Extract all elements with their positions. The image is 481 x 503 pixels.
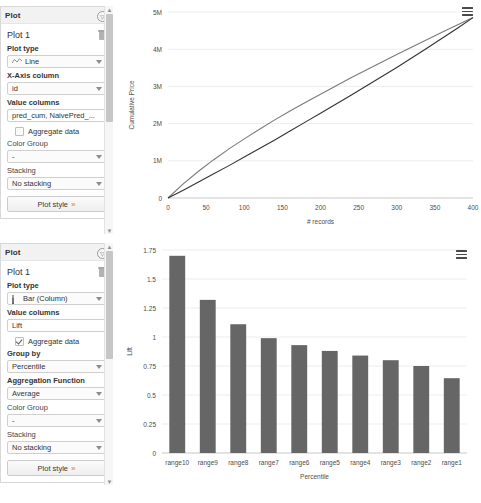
value-columns-field[interactable]: Lift <box>7 319 106 332</box>
aggregation-function-select[interactable]: Average <box>7 387 106 400</box>
plot-type-label: Plot type <box>7 44 106 53</box>
double-chevron-icon: » <box>71 200 75 209</box>
aggregate-data-label: Aggregate data <box>28 127 79 136</box>
svg-text:100: 100 <box>239 204 250 211</box>
panel-title: Plot <box>5 11 21 20</box>
svg-text:0.25: 0.25 <box>143 421 156 428</box>
group-by-value: Percentile <box>12 362 45 371</box>
x-axis-label: X-Axis column <box>7 71 106 80</box>
scroll-down-arrow-icon[interactable]: ▼ <box>106 478 113 485</box>
svg-text:400: 400 <box>468 204 479 211</box>
svg-text:4M: 4M <box>153 46 162 53</box>
aggregate-data-checkbox[interactable] <box>15 127 24 136</box>
svg-text:range10: range10 <box>165 459 189 467</box>
value-columns-label: Value columns <box>7 308 106 317</box>
svg-text:1.5: 1.5 <box>147 276 156 283</box>
plot-style-button[interactable]: Plot style » <box>7 460 106 476</box>
bar-chart-icon <box>12 295 20 303</box>
chevron-down-icon <box>96 419 102 423</box>
plot-panel-top: Plot ▽ Plot 1 Plot type Line X-Axis colu… <box>0 6 113 219</box>
svg-text:0: 0 <box>152 450 156 457</box>
svg-text:3M: 3M <box>153 83 162 90</box>
color-group-value: - <box>12 152 15 161</box>
hamburger-menu-icon[interactable] <box>462 7 473 16</box>
panel-body-top: Plot 1 Plot type Line X-Axis column id V… <box>0 23 113 219</box>
plot-style-button[interactable]: Plot style » <box>7 196 106 212</box>
svg-text:range1: range1 <box>442 459 463 467</box>
chevron-down-icon <box>96 365 102 369</box>
plot-type-label: Plot type <box>7 281 106 290</box>
color-group-label: Color Group <box>7 403 106 412</box>
chevron-down-icon <box>96 446 102 450</box>
color-group-select[interactable]: - <box>7 414 106 427</box>
color-group-label: Color Group <box>7 139 106 148</box>
stacking-value: No stacking <box>12 179 51 188</box>
panel-scrollbar-top[interactable]: ▲ ▼ <box>104 6 113 234</box>
plot-type-select[interactable]: Bar (Column) <box>7 292 106 305</box>
plot-style-label: Plot style <box>38 200 68 209</box>
panel-header-bottom[interactable]: Plot ▽ <box>0 243 113 260</box>
stacking-value: No stacking <box>12 443 51 452</box>
svg-text:range2: range2 <box>411 459 432 467</box>
panel-header-top[interactable]: Plot ▽ <box>0 6 113 23</box>
bar-chart-canvas: 00.250.50.7511.251.51.75range10range9ran… <box>120 240 481 495</box>
plot-type-value: Bar (Column) <box>23 294 68 303</box>
svg-text:0: 0 <box>158 195 162 202</box>
svg-text:range6: range6 <box>289 459 310 467</box>
chevron-down-icon <box>96 182 102 186</box>
stacking-select[interactable]: No stacking <box>7 177 106 190</box>
svg-text:300: 300 <box>391 204 402 211</box>
svg-text:1M: 1M <box>153 157 162 164</box>
plot-panel-bottom: Plot ▽ Plot 1 Plot type Bar (Column) Val… <box>0 243 113 483</box>
line-chart-canvas: 01M2M3M4M5M050100150200250300350400# rec… <box>120 0 481 238</box>
aggregate-data-row[interactable]: Aggregate data <box>15 127 106 136</box>
panel-body-bottom: Plot 1 Plot type Bar (Column) Value colu… <box>0 260 113 483</box>
aggregate-data-checkbox[interactable] <box>15 337 24 346</box>
svg-text:range4: range4 <box>350 459 371 467</box>
svg-text:range7: range7 <box>259 459 280 467</box>
aggregation-function-label: Aggregation Function <box>7 376 106 385</box>
svg-text:range9: range9 <box>198 459 219 467</box>
hamburger-menu-icon[interactable] <box>456 250 467 259</box>
value-columns-field[interactable]: pred_cum, NaivePred_... <box>7 109 106 122</box>
aggregate-data-label: Aggregate data <box>28 337 79 346</box>
scroll-up-arrow-icon[interactable]: ▲ <box>106 6 113 13</box>
svg-text:1.75: 1.75 <box>143 247 156 254</box>
svg-text:Cumulative Price: Cumulative Price <box>128 80 135 130</box>
x-axis-select[interactable]: id <box>7 82 106 95</box>
stacking-label: Stacking <box>7 430 106 439</box>
scroll-down-arrow-icon[interactable]: ▼ <box>106 227 113 234</box>
line-chart-icon <box>12 57 22 66</box>
svg-text:range8: range8 <box>228 459 249 467</box>
chevron-down-icon <box>96 87 102 91</box>
svg-text:0.5: 0.5 <box>147 392 156 399</box>
svg-text:2M: 2M <box>153 120 162 127</box>
svg-text:350: 350 <box>429 204 440 211</box>
scroll-thumb[interactable] <box>106 251 113 359</box>
chevron-down-icon <box>96 155 102 159</box>
svg-text:Percentile: Percentile <box>300 473 329 480</box>
group-by-label: Group by <box>7 349 106 358</box>
svg-text:0.75: 0.75 <box>143 363 156 370</box>
plot-name: Plot 1 <box>7 267 30 277</box>
stacking-label: Stacking <box>7 166 106 175</box>
value-columns-label: Value columns <box>7 98 106 107</box>
scroll-thumb[interactable] <box>106 14 113 122</box>
group-by-select[interactable]: Percentile <box>7 360 106 373</box>
plot-style-label: Plot style <box>38 464 68 473</box>
cumulative-price-line-chart: 01M2M3M4M5M050100150200250300350400# rec… <box>120 0 481 238</box>
panel-scrollbar-bottom[interactable]: ▲ ▼ <box>104 243 113 485</box>
aggregate-data-row[interactable]: Aggregate data <box>15 337 106 346</box>
chevron-down-icon <box>96 297 102 301</box>
svg-text:0: 0 <box>166 204 170 211</box>
x-axis-value: id <box>12 84 18 93</box>
stacking-select[interactable]: No stacking <box>7 441 106 454</box>
color-group-value: - <box>12 416 15 425</box>
plot-row: Plot 1 <box>7 30 106 40</box>
color-group-select[interactable]: - <box>7 150 106 163</box>
svg-text:1: 1 <box>152 334 156 341</box>
svg-text:5M: 5M <box>153 9 162 16</box>
plot-type-select[interactable]: Line <box>7 55 106 68</box>
svg-text:250: 250 <box>353 204 364 211</box>
scroll-up-arrow-icon[interactable]: ▲ <box>106 243 113 250</box>
